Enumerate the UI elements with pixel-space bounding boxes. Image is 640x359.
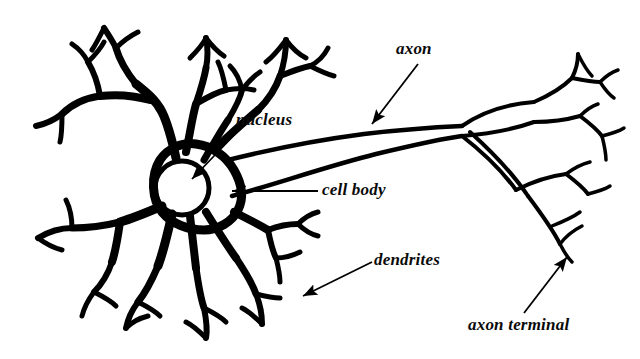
axon-arrow xyxy=(372,64,418,124)
cell-body xyxy=(153,144,241,230)
axon-terminals xyxy=(516,54,624,262)
label-dendrites: dendrites xyxy=(374,251,440,268)
neuron-diagram-canvas: nucleus cell body axon dendrites axon te… xyxy=(0,0,640,359)
label-axon-terminal: axon terminal xyxy=(468,316,569,333)
axon-terminal-arrow xyxy=(524,257,567,313)
dendrites-arrow xyxy=(303,262,372,296)
label-axon: axon xyxy=(396,40,432,57)
label-cell-body: cell body xyxy=(322,181,386,198)
label-nucleus: nucleus xyxy=(236,111,292,128)
neuron-illustration xyxy=(0,0,640,359)
